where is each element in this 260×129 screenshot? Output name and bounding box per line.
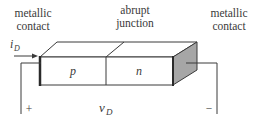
current-label: i D bbox=[10, 37, 20, 53]
voltage-label: v D bbox=[99, 100, 113, 117]
voltage-subscript: D bbox=[105, 107, 113, 117]
left-contact-label: metallic contact bbox=[14, 7, 51, 32]
left-contact-label-line2: contact bbox=[16, 20, 50, 32]
plus-terminal-label: + bbox=[26, 103, 33, 115]
right-contact-label: metallic contact bbox=[210, 7, 247, 32]
n-region-label: n bbox=[136, 64, 142, 78]
junction-label: abrupt junction bbox=[115, 4, 154, 30]
current-arrow-icon bbox=[14, 54, 38, 59]
junction-label-line2: junction bbox=[115, 17, 154, 30]
minus-terminal-label: − bbox=[206, 102, 213, 114]
right-contact-label-line1: metallic bbox=[210, 7, 247, 19]
p-region-label: p bbox=[69, 64, 76, 78]
voltage-symbol: v bbox=[99, 100, 105, 115]
pn-junction-diagram: metallic contact abrupt junction metalli… bbox=[0, 0, 260, 129]
current-symbol: i bbox=[10, 37, 13, 51]
box-top-face bbox=[40, 42, 197, 57]
current-subscript: D bbox=[13, 44, 20, 53]
left-contact-label-line1: metallic bbox=[14, 7, 51, 19]
right-contact-label-line2: contact bbox=[212, 20, 246, 32]
junction-label-line1: abrupt bbox=[120, 4, 150, 17]
